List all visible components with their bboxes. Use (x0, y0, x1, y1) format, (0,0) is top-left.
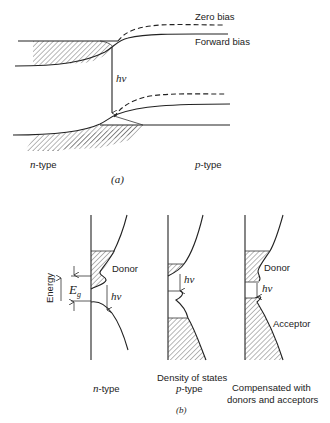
n-valence-band-dos (91, 302, 128, 350)
c-transition-label: hν (262, 282, 273, 294)
quasi-fermi-crossing (114, 116, 143, 125)
n-donor-label: Donor (112, 263, 138, 274)
figure-a-pn-junction: hν Zero bias Forward bias n-type p-type … (13, 11, 250, 186)
n-transition-label: hν (111, 290, 122, 302)
panel-p-type: hν Density of states p-type (157, 215, 227, 394)
n-side-electron-fill (33, 41, 113, 65)
p-valence-filled-states (168, 318, 206, 360)
compensated-caption-line2: donors and acceptors (227, 394, 319, 405)
transition-label-hv: hν (116, 72, 127, 84)
p-transition-label: hν (184, 273, 195, 285)
label-n-type: n-type (30, 158, 57, 170)
panel-n-type: Donor hν n-type (91, 215, 138, 394)
n-type-caption: n-type (93, 382, 120, 394)
legend-forward-bias: Forward bias (195, 36, 250, 47)
band-diagram-figure: hν Zero bias Forward bias n-type p-type … (0, 0, 330, 423)
figure-b-density-of-states: Energy Eg Donor hν n-type (44, 215, 319, 415)
caption-a: (a) (111, 173, 124, 186)
eg-label: Eg (68, 282, 81, 299)
label-p-type: p-type (194, 158, 222, 170)
c-donor-label: Donor (264, 262, 290, 273)
energy-axis-label: Energy (44, 273, 55, 303)
caption-b: (b) (176, 405, 187, 415)
panel-compensated: Donor hν Acceptor Compensated with donor… (227, 215, 319, 405)
compensated-caption-line1: Compensated with (232, 382, 311, 393)
density-of-states-label: Density of states (157, 372, 227, 383)
legend-zero-bias: Zero bias (195, 11, 235, 22)
c-acceptor-label: Acceptor (273, 318, 311, 329)
p-type-caption: p-type (175, 382, 203, 394)
